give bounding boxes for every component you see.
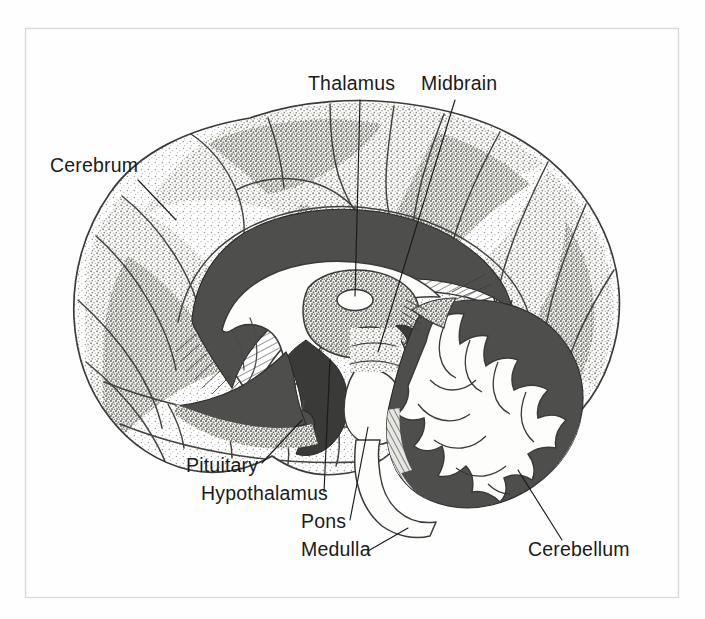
label-midbrain: Midbrain xyxy=(421,72,497,94)
label-cerebellum: Cerebellum xyxy=(528,538,630,560)
label-pituitary: Pituitary xyxy=(186,454,258,476)
label-hypothalamus: Hypothalamus xyxy=(201,482,328,504)
label-pons: Pons xyxy=(301,510,346,532)
brain-diagram-canvas: Cerebrum Thalamus Midbrain Pituitary Hyp… xyxy=(0,0,705,619)
leader-medulla xyxy=(368,528,408,551)
brain-diagram-figure: Cerebrum Thalamus Midbrain Pituitary Hyp… xyxy=(0,0,705,619)
label-thalamus: Thalamus xyxy=(308,72,395,94)
cerebellum-structure xyxy=(386,298,584,513)
label-cerebrum: Cerebrum xyxy=(50,154,138,176)
label-medulla: Medulla xyxy=(301,538,371,560)
